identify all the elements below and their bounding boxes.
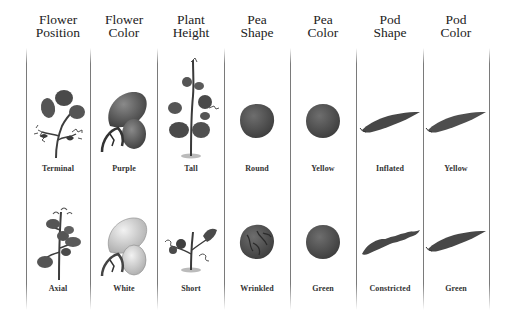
column-header: Pod Color xyxy=(415,13,497,39)
column-pod-color: Pod Color Yellow Green xyxy=(415,0,497,319)
mendel-traits-figure: Flower Position Terminal xyxy=(0,0,519,319)
yellow-pod-icon xyxy=(415,108,497,134)
trait-label-recessive: Green xyxy=(415,284,497,293)
header-line: Color xyxy=(415,26,497,39)
trait-label-dominant: Yellow xyxy=(415,164,497,173)
green-pod-icon xyxy=(415,228,497,254)
